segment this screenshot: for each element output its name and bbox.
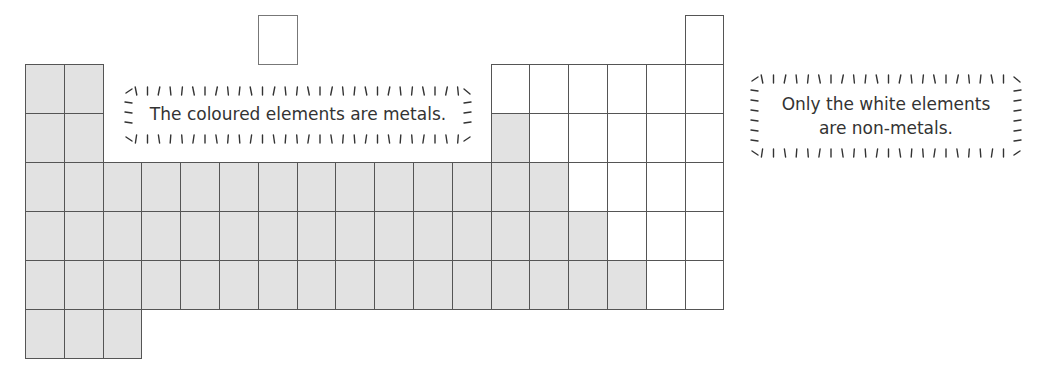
metal-element-cell — [374, 162, 414, 212]
metal-element-cell — [491, 113, 530, 163]
metal-element-cell — [64, 113, 104, 163]
metal-element-cell — [607, 260, 647, 310]
metal-element-cell — [180, 162, 220, 212]
metal-element-cell — [491, 162, 530, 212]
nonmetal-element-cell — [646, 260, 686, 310]
nonmetal-element-cell — [607, 162, 647, 212]
metal-element-cell — [374, 211, 414, 261]
nonmetal-element-cell — [646, 211, 686, 261]
nonmetal-element-cell — [258, 15, 298, 65]
nonmetal-element-cell — [685, 113, 724, 163]
nonmetals-callout-line2: are non-metals. — [748, 117, 1024, 139]
metal-element-cell — [452, 260, 492, 310]
nonmetal-element-cell — [685, 260, 724, 310]
metal-element-cell — [219, 162, 259, 212]
metal-element-cell — [64, 64, 104, 114]
metal-element-cell — [529, 162, 569, 212]
metal-element-cell — [25, 113, 65, 163]
nonmetal-element-cell — [529, 113, 569, 163]
metal-element-cell — [529, 211, 569, 261]
metal-element-cell — [64, 260, 104, 310]
metal-element-cell — [64, 162, 104, 212]
nonmetal-element-cell — [607, 211, 647, 261]
metal-element-cell — [25, 309, 65, 359]
metal-element-cell — [25, 162, 65, 212]
metal-element-cell — [103, 309, 142, 359]
metal-element-cell — [297, 260, 336, 310]
metal-element-cell — [141, 211, 181, 261]
metal-element-cell — [335, 211, 375, 261]
metal-element-cell — [297, 162, 336, 212]
metal-element-cell — [335, 260, 375, 310]
nonmetal-element-cell — [568, 113, 608, 163]
metal-element-cell — [219, 260, 259, 310]
metal-element-cell — [413, 260, 453, 310]
metal-element-cell — [141, 260, 181, 310]
metal-element-cell — [529, 260, 569, 310]
metal-element-cell — [180, 211, 220, 261]
metal-element-cell — [335, 162, 375, 212]
metal-element-cell — [141, 162, 181, 212]
metal-element-cell — [219, 211, 259, 261]
nonmetal-element-cell — [568, 162, 608, 212]
metal-element-cell — [103, 260, 142, 310]
nonmetal-element-cell — [685, 15, 724, 65]
metals-callout: The coloured elements are metals. — [122, 84, 474, 146]
metal-element-cell — [413, 162, 453, 212]
metal-element-cell — [413, 211, 453, 261]
nonmetal-element-cell — [529, 64, 569, 114]
callout-burst-border-icon — [748, 72, 1024, 160]
nonmetals-callout: Only the white elements are non-metals. — [748, 72, 1024, 160]
nonmetal-element-cell — [685, 64, 724, 114]
metal-element-cell — [452, 211, 492, 261]
nonmetal-element-cell — [568, 64, 608, 114]
nonmetal-element-cell — [685, 162, 724, 212]
nonmetal-element-cell — [646, 162, 686, 212]
nonmetals-callout-line1: Only the white elements — [748, 93, 1024, 115]
metal-element-cell — [258, 211, 298, 261]
metal-element-cell — [374, 260, 414, 310]
metal-element-cell — [491, 211, 530, 261]
nonmetal-element-cell — [646, 64, 686, 114]
nonmetal-element-cell — [685, 211, 724, 261]
metal-element-cell — [568, 260, 608, 310]
metal-element-cell — [103, 211, 142, 261]
metal-element-cell — [25, 260, 65, 310]
nonmetal-element-cell — [646, 113, 686, 163]
metals-callout-text: The coloured elements are metals. — [122, 103, 474, 125]
nonmetal-element-cell — [607, 64, 647, 114]
metal-element-cell — [25, 64, 65, 114]
metal-element-cell — [568, 211, 608, 261]
metal-element-cell — [64, 309, 104, 359]
metal-element-cell — [258, 162, 298, 212]
metal-element-cell — [452, 162, 492, 212]
metal-element-cell — [491, 260, 530, 310]
metal-element-cell — [64, 211, 104, 261]
nonmetal-element-cell — [607, 113, 647, 163]
metal-element-cell — [180, 260, 220, 310]
metal-element-cell — [258, 260, 298, 310]
metal-element-cell — [25, 211, 65, 261]
metal-element-cell — [297, 211, 336, 261]
nonmetal-element-cell — [491, 64, 530, 114]
metal-element-cell — [103, 162, 142, 212]
